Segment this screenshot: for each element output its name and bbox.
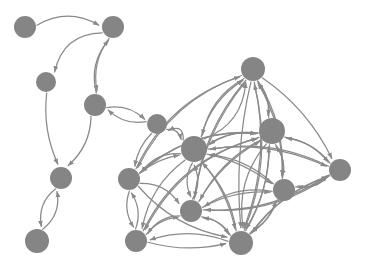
graph-node[interactable] [25,229,49,253]
graph-node[interactable] [259,118,285,144]
graph-edge [135,134,152,167]
graph-edge [142,160,185,228]
graph-node[interactable] [84,94,106,116]
graph-edge [43,192,58,230]
graph-node[interactable] [241,57,265,81]
graph-edge [210,132,259,144]
graph-edge [131,193,138,229]
graph-node[interactable] [181,136,207,162]
graph-edge [41,189,56,227]
graph-edge [37,16,99,25]
graph-edge [68,116,91,165]
graph-node[interactable] [329,159,351,181]
network-graph [0,0,367,266]
graph-node[interactable] [102,16,124,38]
graph-node[interactable] [229,231,253,255]
graph-node[interactable] [147,114,167,134]
graph-edge [187,163,192,197]
graph-edge [96,38,109,90]
graph-node[interactable] [273,179,295,201]
graph-node[interactable] [125,230,147,252]
graph-canvas [0,0,367,266]
graph-node[interactable] [14,16,36,38]
graph-node[interactable] [50,167,72,189]
graph-node[interactable] [36,72,56,92]
graph-edge [127,191,134,227]
graph-node[interactable] [118,168,140,190]
graph-edge [209,155,273,184]
graph-edge [46,93,58,164]
graph-edge [202,79,244,135]
graph-edge [148,242,226,248]
graph-node[interactable] [180,200,202,222]
